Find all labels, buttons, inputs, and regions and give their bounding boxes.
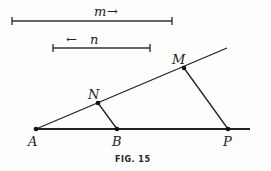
point-P (226, 127, 231, 132)
segment-MP (184, 68, 228, 129)
geometry-figure: m → ← n A B P N M FIG. 15 (0, 0, 271, 171)
figure-caption: FIG. 15 (115, 155, 150, 164)
point-B (115, 127, 120, 132)
label-N: N (87, 87, 100, 102)
label-P: P (222, 134, 232, 149)
segment-m (12, 17, 172, 25)
label-A: A (27, 134, 37, 149)
segment-n-arrow-icon: ← (66, 32, 77, 47)
segment-m-arrow-icon: → (107, 4, 118, 19)
point-A (34, 127, 39, 132)
segment-m-label: m (94, 4, 106, 19)
segment-n-label: n (90, 32, 98, 47)
label-M: M (171, 52, 186, 67)
figure-canvas: m → ← n A B P N M FIG. 15 (0, 0, 271, 171)
label-B: B (111, 134, 122, 149)
segment-NB (98, 103, 117, 129)
